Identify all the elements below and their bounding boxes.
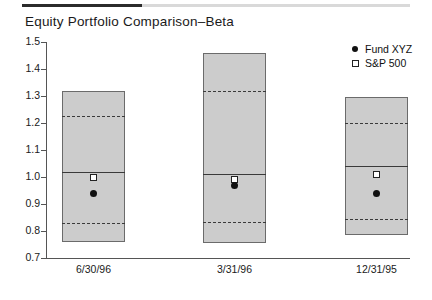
y-axis-tick-label: 1.3 [6,89,40,101]
legend-item-fund-xyz: Fund XYZ [349,42,412,56]
marker-sp-500 [90,174,97,181]
x-axis-tick-label: 6/30/96 [34,263,154,275]
median-line [203,174,266,175]
open-square-icon [349,60,361,67]
x-axis-line [46,258,410,259]
y-axis-tick-label: 1.2 [6,116,40,128]
x-axis-tick-label: 3/31/96 [175,263,295,275]
y-axis-tick [41,42,47,43]
y-axis-tick [41,177,47,178]
y-axis-tick [41,123,47,124]
marker-sp-500 [373,171,380,178]
upper-quartile-dashed-line [203,91,266,92]
marker-fund-xyz [373,190,380,197]
median-line [345,166,408,167]
chart-container: Equity Portfolio Comparison–Beta 1.51.41… [0,0,432,300]
upper-quartile-dashed-line [62,116,125,117]
header-rule-dark [22,4,142,7]
y-axis-tick-label: 1.1 [6,143,40,155]
upper-quartile-dashed-line [345,123,408,124]
x-axis-tick-label: 12/31/95 [317,263,432,275]
page-title: Equity Portfolio Comparison–Beta [25,14,234,29]
y-axis-tick [41,258,47,259]
y-axis-tick [41,96,47,97]
lower-quartile-dashed-line [345,219,408,220]
y-axis-tick [41,69,47,70]
marker-fund-xyz [90,190,97,197]
y-axis-tick-label: 1.4 [6,62,40,74]
marker-fund-xyz [231,182,238,189]
y-axis-tick-label: 1.0 [6,170,40,182]
y-axis-tick-label: 0.7 [6,251,40,263]
y-axis-tick-label: 1.5 [6,35,40,47]
y-axis-tick-label: 0.9 [6,197,40,209]
range-box [203,53,266,243]
legend-item-sp-500: S&P 500 [349,56,412,70]
range-box [62,91,125,242]
y-axis-tick [41,231,47,232]
y-axis-tick [41,150,47,151]
lower-quartile-dashed-line [203,222,266,223]
legend-label: S&P 500 [365,57,406,69]
y-axis-tick [41,204,47,205]
filled-circle-icon [349,46,361,52]
y-axis-labels: 1.51.41.31.21.11.00.90.80.7 [0,0,40,300]
legend-label: Fund XYZ [365,43,412,55]
y-axis-tick-label: 0.8 [6,224,40,236]
lower-quartile-dashed-line [62,223,125,224]
chart-legend: Fund XYZ S&P 500 [349,42,412,70]
median-line [62,172,125,173]
